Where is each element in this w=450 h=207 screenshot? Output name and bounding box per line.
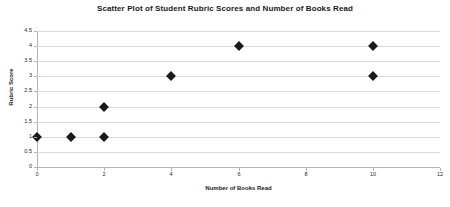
y-axis-tick-label: 4.5: [14, 28, 32, 34]
y-axis-tick-label: 1.5: [14, 119, 32, 125]
y-axis-tick-label: 2.5: [14, 88, 32, 94]
scatter-chart: Scatter Plot of Student Rubric Scores an…: [0, 0, 450, 207]
y-axis-tick-label: 0: [14, 164, 32, 170]
y-axis-tick-label: 2: [14, 104, 32, 110]
x-axis-tick-label: 6: [229, 172, 249, 178]
x-axis-tick-label: 2: [94, 172, 114, 178]
x-axis-tick-label: 0: [27, 172, 47, 178]
x-axis-tick-label: 10: [363, 172, 383, 178]
x-axis-tick-label: 12: [430, 172, 450, 178]
x-axis-tick-label: 4: [161, 172, 181, 178]
y-axis-tick-label: 0.5: [14, 149, 32, 155]
y-axis-tick-label: 4: [14, 43, 32, 49]
y-axis-tick-label: 3.5: [14, 58, 32, 64]
y-axis-tick-label: 3: [14, 73, 32, 79]
y-axis-title: Rubric Score: [8, 57, 14, 117]
y-axis-tick-label: 1: [14, 134, 32, 140]
x-axis-title: Number of Books Read: [37, 185, 440, 191]
x-axis-tick-label: 8: [296, 172, 316, 178]
